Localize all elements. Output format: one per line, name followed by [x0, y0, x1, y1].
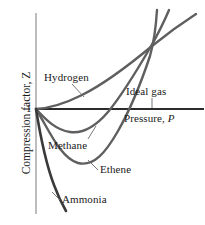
y-axis-label: Compression factor, Z: [20, 48, 32, 198]
curve-label-hydrogen: Hydrogen: [44, 72, 89, 83]
x-axis-label-text: Pressure, P: [124, 112, 175, 124]
curve-label-ethene: Ethene: [100, 164, 131, 175]
curve-hydrogen: [36, 14, 196, 109]
y-axis-label-text: Compression factor, Z: [20, 72, 32, 175]
y-axis-tick-label-1: 1: [26, 102, 32, 114]
y-axis-label-text-symbol: Z: [20, 72, 32, 79]
compression-factor-figure: Compression factor, Z 1 Hydrogen Ideal g…: [0, 0, 205, 225]
leader-hydrogen: [72, 84, 84, 97]
curve-label-ammonia: Ammonia: [62, 194, 107, 205]
x-axis-label: Pressure, P: [124, 113, 175, 124]
x-axis-label-text-symbol: P: [168, 112, 175, 124]
curve-label-methane: Methane: [48, 140, 87, 151]
curve-label-ideal-gas: Ideal gas: [126, 86, 166, 97]
